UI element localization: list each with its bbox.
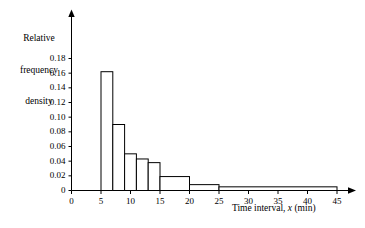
x-axis-tick-label: 20 (180, 197, 200, 206)
histogram-bar (219, 187, 337, 191)
histogram-bars-group (101, 72, 337, 191)
x-axis-tick-label: 10 (121, 197, 141, 206)
x-axis-tick-label: 25 (209, 197, 229, 206)
x-axis-tick-label: 15 (150, 197, 170, 206)
x-axis-tick-label: 0 (62, 197, 82, 206)
histogram-bar (125, 154, 137, 191)
y-axis-title-line-1: Relative (8, 33, 70, 44)
y-axis-tick-label: 0.08 (38, 127, 66, 136)
y-axis-tick-label: 0.06 (38, 142, 66, 151)
y-axis-tick-label: 0 (38, 186, 66, 195)
histogram-bar (160, 177, 190, 191)
y-axis-tick-label: 0.02 (38, 171, 66, 180)
y-axis-tick-label: 0.18 (38, 54, 66, 63)
y-axis-tick-label: 0.04 (38, 157, 66, 166)
histogram-bar (190, 185, 220, 191)
histogram-bar (148, 163, 160, 191)
histogram-figure: Relative frequency density Time interval… (0, 0, 365, 228)
x-axis-tick-label: 5 (91, 197, 111, 206)
histogram-bar (113, 125, 125, 191)
y-axis-tick-label: 0.16 (38, 69, 66, 78)
y-axis-tick-label: 0.14 (38, 83, 66, 92)
x-axis-tick-label: 40 (298, 197, 318, 206)
histogram-bar (101, 72, 113, 191)
x-axis-arrowhead (348, 187, 356, 193)
x-axis-tick-label: 45 (327, 197, 347, 206)
y-axis-tick-label: 0.12 (38, 98, 66, 107)
x-axis-tick-label: 30 (239, 197, 259, 206)
y-axis-tick-label: 0.10 (38, 113, 66, 122)
histogram-bar (136, 159, 148, 191)
x-axis-tick-label: 35 (268, 197, 288, 206)
